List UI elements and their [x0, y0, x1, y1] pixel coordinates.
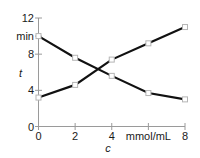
data-point-marker [183, 25, 188, 30]
y-tick-label: 8 [8, 49, 34, 60]
y-tick-label: 0 [8, 121, 34, 132]
y-tick-label: 12 [8, 13, 34, 24]
data-point-marker [36, 95, 41, 100]
data-point-marker [73, 82, 78, 87]
y-axis-unit-label: min [2, 31, 34, 42]
x-axis-title: c [105, 143, 111, 154]
x-tick-label: 8 [182, 131, 188, 142]
data-point-marker [109, 57, 114, 62]
y-tick-label: 4 [8, 85, 34, 96]
data-point-marker [73, 55, 78, 60]
series-ascending [36, 25, 188, 101]
x-tick-label: 4 [109, 131, 115, 142]
axis-lines [38, 18, 185, 127]
x-tick-label: 2 [72, 131, 78, 142]
data-point-marker [183, 97, 188, 102]
x-axis-unit-label: mmol/mL [126, 131, 171, 142]
y-axis-title: t [19, 68, 22, 79]
data-series-layer [36, 25, 188, 102]
data-point-marker [109, 73, 114, 78]
data-point-marker [36, 34, 41, 39]
data-point-marker [146, 41, 151, 46]
data-point-marker [146, 91, 151, 96]
chart-figure: 04812min 024mmol/mL8 t c [0, 0, 200, 158]
x-tick-label: 0 [35, 131, 41, 142]
